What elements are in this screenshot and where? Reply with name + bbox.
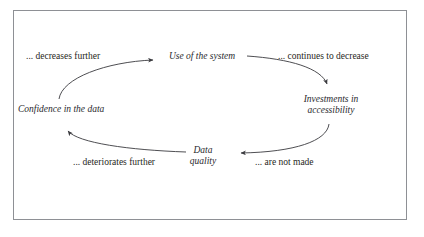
node-use-of-the-system: Use of the system <box>159 51 245 62</box>
edge-label-decreases-further: ... decreases further <box>26 51 100 62</box>
edge-label-deteriorates-further: ... deteriorates further <box>73 157 155 168</box>
edge-label-continues-to-decrease: ... continues to decrease <box>278 51 369 62</box>
edge-label-are-not-made: ... are not made <box>255 157 314 168</box>
node-investments-in-accessibility: Investments in accessibility <box>288 94 374 116</box>
node-data-quality: Data quality <box>181 145 225 167</box>
node-confidence-in-the-data: Confidence in the data <box>18 104 126 115</box>
diagram-screenshot: Use of the system Investments in accessi… <box>0 0 424 237</box>
